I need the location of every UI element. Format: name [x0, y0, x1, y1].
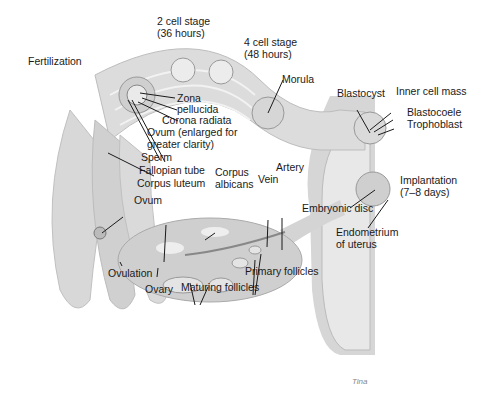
label-sperm: Sperm	[141, 152, 172, 164]
label-corona-radiata: Corona radiata	[162, 115, 231, 127]
label-ovum-enlarged: Ovum (enlarged for	[147, 127, 237, 139]
label-primary-follicles: Primary follicles	[245, 266, 319, 278]
implanted-embryo	[356, 172, 390, 206]
label-endometrium: Endometrium	[336, 227, 398, 239]
label-of-uterus: of uterus	[336, 239, 377, 251]
label-two-cell-time: (36 hours)	[157, 28, 205, 40]
label-fertilization: Fertilization	[28, 56, 82, 68]
label-maturing-follicles: Maturing follicles	[181, 282, 259, 294]
label-ovum: Ovum	[134, 195, 162, 207]
label-corpus-luteum: Corpus luteum	[137, 178, 205, 190]
label-blastocoele: Blastocoele	[407, 107, 461, 119]
label-corpus: Corpus	[215, 167, 249, 179]
label-albicans: albicans	[215, 179, 254, 191]
label-morula: Morula	[282, 74, 314, 86]
label-two-cell-stage: 2 cell stage	[157, 16, 210, 28]
artist-signature: Tina	[352, 376, 368, 388]
label-embryonic-disc: Embryonic disc	[302, 203, 373, 215]
label-four-cell-time: (48 hours)	[244, 49, 292, 61]
label-trophoblast: Trophoblast	[407, 119, 462, 131]
label-ovary: Ovary	[145, 284, 173, 296]
label-implantation-time: (7–8 days)	[400, 187, 450, 199]
fertilization-diagram: Fertilization 2 cell stage (36 hours) 4 …	[0, 0, 480, 408]
label-four-cell-stage: 4 cell stage	[244, 37, 297, 49]
label-vein: Vein	[258, 174, 278, 186]
label-ovulation: Ovulation	[108, 268, 152, 280]
label-inner-cell-mass: Inner cell mass	[396, 86, 467, 98]
label-greater-clarity: greater clarity)	[147, 139, 214, 151]
label-blastocyst: Blastocyst	[337, 88, 385, 100]
label-artery: Artery	[276, 162, 304, 174]
label-fallopian-tube: Fallopian tube	[139, 165, 205, 177]
label-implantation: Implantation	[400, 175, 457, 187]
two-cell-embryo	[171, 58, 195, 82]
four-cell-embryo	[209, 60, 233, 84]
